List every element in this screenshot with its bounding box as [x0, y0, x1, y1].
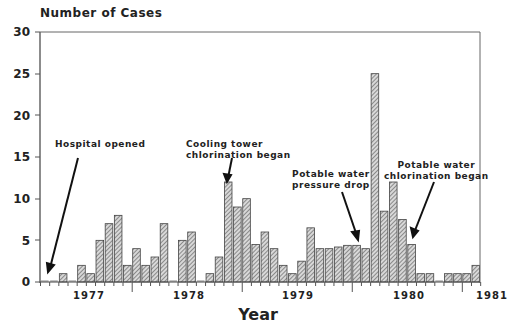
x-tick-1981: 1981 — [476, 290, 508, 301]
bar — [316, 249, 324, 282]
x-tick-1977: 1977 — [73, 290, 105, 301]
bar — [188, 232, 196, 282]
bar — [87, 274, 95, 282]
y-tick-0: 0 — [4, 275, 30, 289]
bar — [371, 74, 379, 282]
bar — [78, 265, 86, 282]
bar — [463, 274, 471, 282]
bar — [252, 245, 260, 283]
x-tick-1978: 1978 — [173, 290, 205, 301]
bar — [243, 199, 251, 282]
bar — [417, 274, 425, 282]
bar — [408, 245, 416, 283]
bar — [270, 249, 278, 282]
annotation-line: Potable water — [292, 169, 370, 180]
bar — [444, 274, 452, 282]
bar — [389, 182, 397, 282]
y-tick-25: 25 — [4, 67, 30, 81]
bar — [142, 265, 150, 282]
bar — [206, 274, 214, 282]
y-tick-10: 10 — [4, 192, 30, 206]
bar — [353, 245, 361, 282]
bar — [96, 240, 104, 282]
y-tick-5: 5 — [4, 234, 30, 248]
bar — [151, 257, 159, 282]
y-axis-title: Number of Cases — [40, 6, 162, 20]
bar — [325, 249, 333, 282]
bar — [279, 265, 287, 282]
bar — [124, 265, 132, 282]
annotation-pressure-drop: Potable water pressure drop — [292, 169, 370, 191]
x-axis-title: Year — [238, 305, 278, 324]
x-tick-1979: 1979 — [282, 290, 314, 301]
annotation-cooling-tower: Cooling tower chlorination began — [186, 139, 291, 161]
bar — [334, 247, 342, 282]
bar — [472, 265, 480, 282]
bar — [307, 228, 315, 282]
bar — [426, 274, 434, 282]
annotation-line: Cooling tower — [186, 139, 291, 150]
bar — [215, 257, 223, 282]
bar — [224, 182, 232, 282]
bar — [179, 240, 187, 282]
annotation-line: chlorination began — [384, 171, 489, 182]
bar — [234, 207, 242, 282]
bar — [362, 249, 370, 282]
bar — [133, 249, 141, 282]
annotation-hospital-opened: Hospital opened — [55, 139, 145, 150]
bar — [380, 211, 388, 282]
y-tick-20: 20 — [4, 109, 30, 123]
annotation-line: chlorination began — [186, 150, 291, 161]
annotation-line: pressure drop — [292, 180, 370, 191]
bar — [454, 274, 462, 282]
bar — [344, 245, 352, 282]
annotation-potable-chlorination: Potable water chlorination began — [384, 160, 489, 182]
bar — [399, 220, 407, 283]
y-tick-30: 30 — [4, 25, 30, 39]
bar — [114, 215, 122, 282]
bar — [289, 274, 297, 282]
bar — [298, 261, 306, 282]
bar — [261, 232, 269, 282]
bar — [105, 224, 113, 282]
bar — [160, 224, 168, 282]
annotation-line: Potable water — [384, 160, 489, 171]
bar — [59, 274, 67, 282]
x-tick-1980: 1980 — [393, 290, 425, 301]
y-tick-15: 15 — [4, 150, 30, 164]
